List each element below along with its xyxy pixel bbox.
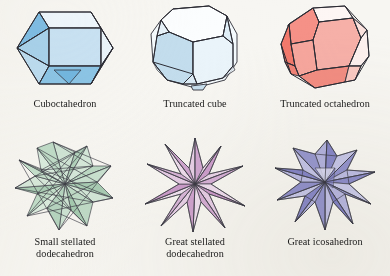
figure-cell-truncated-octahedron: Truncated octahedron (260, 0, 390, 132)
figure-cell-great-icosahedron: Great icosahedron (260, 132, 390, 276)
figure-caption: Small stellated dodecahedron (34, 236, 95, 259)
polyhedra-plate: Cuboctahedron (0, 0, 390, 276)
figure-cell-truncated-cube: Truncated cube (130, 0, 260, 132)
great-stellated-dodecahedron-illustration (139, 132, 251, 236)
figure-caption: Great stellated dodecahedron (165, 236, 225, 259)
great-icosahedron-illustration (269, 132, 381, 236)
truncated-cube-illustration (139, 0, 251, 96)
small-stellated-dodecahedron-faces (15, 142, 113, 230)
figure-cell-small-stellated-dodecahedron: Small stellated dodecahedron (0, 132, 130, 276)
truncated-octahedron-illustration (269, 0, 381, 96)
figure-cell-great-stellated-dodecahedron: Great stellated dodecahedron (130, 132, 260, 276)
figure-caption: Truncated octahedron (280, 98, 370, 110)
figure-caption: Great icosahedron (287, 236, 362, 248)
cuboctahedron-illustration (9, 0, 121, 96)
figure-caption: Cuboctahedron (34, 98, 97, 110)
small-stellated-dodecahedron-illustration (9, 132, 121, 236)
cuboctahedron-faces (17, 12, 113, 84)
figure-cell-cuboctahedron: Cuboctahedron (0, 0, 130, 132)
figure-caption: Truncated cube (163, 98, 226, 110)
